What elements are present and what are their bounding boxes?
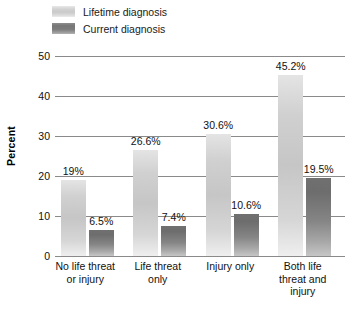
bar-value-label: 26.6% [124, 136, 167, 147]
bar-value-label: 30.6% [197, 120, 240, 131]
legend-swatch-icon-current [52, 23, 75, 34]
legend-item-current-diagnosis: Current diagnosis [52, 21, 232, 36]
bar-value-label: 6.5% [80, 216, 123, 227]
x-category-label-line: only [122, 273, 195, 286]
x-category-label: No life threator injury [49, 260, 122, 285]
x-category-label: Both lifethreat andinjury [267, 260, 340, 298]
legend-swatch-icon-lifetime [52, 6, 75, 17]
bar-value-label: 19% [52, 166, 95, 177]
x-category-label-line: injury [267, 285, 340, 298]
y-tick-label-40: 40 [24, 91, 50, 101]
legend-label-current: Current diagnosis [83, 23, 165, 35]
x-axis-category-labels: No life threator injuryLife threatonlyIn… [55, 260, 345, 308]
bar [234, 214, 259, 256]
plot-area: 19%26.6%30.6%45.2%6.5%7.4%10.6%19.5% [55, 56, 345, 256]
y-axis-tick-labels: 01020304050 [14, 56, 50, 256]
y-tick-label-10: 10 [24, 211, 50, 221]
x-category-label-line: No life threat [49, 260, 122, 273]
y-tick-label-0: 0 [24, 251, 50, 261]
y-tick-label-20: 20 [24, 171, 50, 181]
bar-value-label: 7.4% [152, 212, 195, 223]
bar-value-label: 10.6% [225, 200, 268, 211]
bar [161, 226, 186, 256]
bar-value-label: 45.2% [269, 61, 312, 72]
x-category-label-line: Injury only [194, 260, 267, 273]
chart-legend: Lifetime diagnosis Current diagnosis [52, 4, 232, 38]
x-category-label: Life threatonly [122, 260, 195, 285]
y-tick-label-30: 30 [24, 131, 50, 141]
x-category-label: Injury only [194, 260, 267, 273]
x-category-label-line: Life threat [122, 260, 195, 273]
y-tick-label-50: 50 [24, 51, 50, 61]
bar [133, 150, 158, 256]
gridline-50 [55, 56, 345, 57]
bar-chart: Lifetime diagnosis Current diagnosis Per… [0, 0, 355, 309]
gridline-0 [55, 256, 345, 257]
legend-label-lifetime: Lifetime diagnosis [83, 6, 167, 18]
legend-item-lifetime-diagnosis: Lifetime diagnosis [52, 4, 232, 19]
x-category-label-line: or injury [49, 273, 122, 286]
bar [206, 134, 231, 256]
bar [89, 230, 114, 256]
x-category-label-line: Both life [267, 260, 340, 273]
x-category-label-line: threat and [267, 273, 340, 286]
bar [306, 178, 331, 256]
bar-value-label: 19.5% [297, 164, 340, 175]
